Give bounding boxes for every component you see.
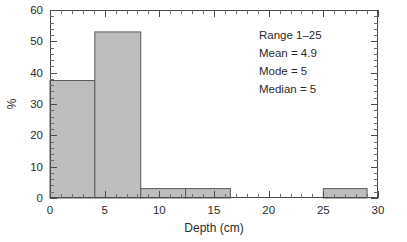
stats-range-label: Range 1–25	[259, 29, 322, 41]
x-tick-label: 10	[153, 204, 166, 216]
histogram-bar	[141, 189, 186, 198]
histogram-bar	[95, 32, 141, 198]
histogram-bar	[50, 81, 95, 199]
y-tick-label: 60	[30, 4, 43, 16]
y-tick-label: 40	[30, 67, 43, 79]
x-tick-label: 25	[317, 204, 330, 216]
x-tick-label: 20	[262, 204, 275, 216]
histogram-figure: 051015202530 0102030405060 Depth (cm) % …	[0, 0, 407, 242]
y-tick-labels: 0102030405060	[30, 4, 43, 204]
y-tick-label: 20	[30, 129, 43, 141]
x-tick-label: 0	[47, 204, 53, 216]
x-tick-labels: 051015202530	[47, 204, 385, 216]
chart-canvas: 051015202530 0102030405060 Depth (cm) % …	[0, 0, 407, 242]
x-tick-label: 5	[101, 204, 107, 216]
y-axis-title: %	[5, 98, 19, 109]
y-tick-label: 30	[30, 98, 43, 110]
y-tick-label: 0	[37, 192, 43, 204]
y-tick-label: 50	[30, 35, 43, 47]
stats-mode-label: Mode = 5	[259, 65, 307, 77]
stats-mean-label: Mean = 4.9	[259, 47, 317, 59]
y-tick-label: 10	[30, 161, 43, 173]
x-tick-label: 15	[208, 204, 221, 216]
x-axis-title: Depth (cm)	[184, 221, 243, 235]
stats-median-label: Median = 5	[259, 83, 316, 95]
x-tick-label: 30	[372, 204, 385, 216]
